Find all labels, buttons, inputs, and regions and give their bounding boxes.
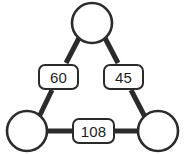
edge-segment-top-to-right-label [105,38,118,63]
edge-label-right: 45 [103,64,144,90]
edge-segment-top-to-left-label [66,38,79,63]
node-bottom-right [138,111,178,151]
edge-label-bottom: 108 [72,118,115,144]
triangle-diagram: 60 45 108 [0,0,187,154]
edge-segment-left-label-to-bottom-left [39,90,52,117]
edge-label-left: 60 [38,64,79,90]
node-bottom-left [7,111,47,151]
edge-segment-right-label-to-bottom-right [131,90,145,117]
node-top [72,3,112,43]
